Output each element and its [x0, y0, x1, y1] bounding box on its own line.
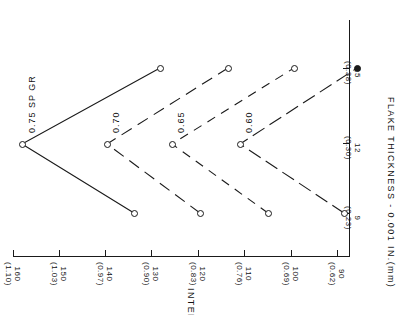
series-line-0.65 [172, 68, 294, 213]
data-point-0.70-t9 [197, 210, 204, 217]
data-point-0.60-t15 [354, 65, 361, 72]
data-point-0.70-t12 [104, 141, 111, 148]
series-label-0.60: 0.60 [244, 111, 254, 133]
data-point-0.65-t15 [291, 65, 298, 72]
data-point-0.75-t15 [157, 65, 164, 72]
series-line-0.70 [107, 68, 228, 213]
series-label-0.75: 0.75 SP GR [27, 75, 37, 133]
data-point-0.75-t9 [131, 210, 138, 217]
data-point-0.70-t15 [225, 65, 232, 72]
chart-figure: 160 (1.10) 150 (1.03) 140 (0.97) 130 (0.… [0, 0, 407, 315]
series-line-0.75 [22, 68, 160, 213]
data-point-0.60-t12 [237, 141, 244, 148]
data-point-0.75-t12 [19, 141, 26, 148]
data-point-0.65-t9 [265, 210, 272, 217]
series-line-0.60 [240, 68, 357, 213]
series-label-0.70: 0.70 [111, 111, 121, 133]
series-label-0.65: 0.65 [176, 111, 186, 133]
data-point-0.65-t12 [169, 141, 176, 148]
series-lines [0, 0, 407, 315]
data-point-0.60-t9 [341, 210, 348, 217]
